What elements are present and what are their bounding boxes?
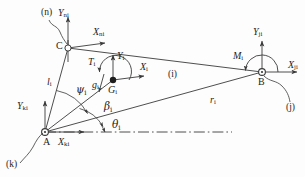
frame-label-j: (j): [286, 103, 295, 113]
angle-arc-theta-i: [101, 125, 105, 133]
angle-label-psi-i: ψi: [76, 84, 87, 96]
axis-label-Yji: Yji: [253, 27, 262, 38]
leader-frame-k: [20, 133, 43, 163]
angle-label-psi-i-base: ψ: [76, 83, 84, 95]
moment-label-Mi: Mi: [233, 51, 243, 62]
axis-label-Yi-sub: i: [123, 54, 125, 61]
angle-label-theta-i-sub: i: [118, 123, 120, 132]
segment-A-C: [45, 48, 68, 132]
axis-label-Xki-sub: ki: [64, 140, 69, 147]
point-label-A: A: [43, 137, 50, 147]
axis-label-Yni-sub: ni: [64, 11, 69, 18]
figure-canvas: (n) (k) (j) (i) C A B Yni Xni Yki Xki Yj…: [0, 0, 305, 177]
frame-label-k: (k): [6, 160, 17, 170]
joint-marker-B-inner: [261, 71, 263, 73]
angle-label-beta-i-sub: i: [110, 105, 112, 114]
axis-Xi: [113, 76, 144, 80]
length-label-li-sub: i: [50, 80, 52, 87]
point-label-Gi: Gi: [108, 85, 117, 96]
torque-arc-Ti: [99, 55, 131, 80]
axis-label-Yi: Yi: [117, 51, 124, 62]
axis-label-Xni: Xni: [93, 27, 104, 38]
axis-label-Yki: Yki: [17, 101, 28, 112]
axis-label-Xki: Xki: [58, 137, 69, 148]
axis-label-Yji-sub: ji: [259, 30, 263, 37]
axis-label-Xni-sub: ni: [99, 30, 104, 37]
segment-A-B: [45, 72, 262, 132]
body-label-i: (i): [168, 70, 177, 80]
point-label-Gi-sub: i: [115, 88, 117, 95]
axis-label-Xji-sub: ji: [294, 63, 298, 70]
axis-Xni: [68, 43, 105, 48]
axis-label-Yki-sub: ki: [23, 104, 28, 111]
angle-label-psi-i-sub: i: [84, 88, 86, 97]
gravity-label-gi-sub: i: [97, 83, 99, 90]
moment-label-Mi-sub: i: [241, 54, 243, 61]
angle-arc-beta-i: [80, 109, 104, 127]
point-label-B: B: [258, 77, 265, 87]
length-label-li: li: [47, 77, 52, 88]
angle-label-beta-i: βi: [104, 101, 112, 113]
gravity-label-gi: gi: [92, 80, 99, 91]
center-of-mass-marker-Gi: [110, 77, 116, 83]
point-label-C: C: [56, 41, 63, 51]
axis-label-Xi-sub: i: [146, 65, 148, 72]
joint-marker-C: [65, 45, 71, 51]
axis-label-Yni: Yni: [58, 8, 69, 19]
joint-marker-A-inner: [44, 131, 46, 133]
leader-frame-j: [264, 76, 290, 102]
axis-label-Xi: Xi: [140, 62, 148, 73]
angle-label-theta-i: θi: [112, 119, 121, 131]
length-label-ri-sub: i: [214, 98, 216, 105]
length-label-ri: ri: [210, 95, 216, 106]
torque-label-Ti-sub: i: [94, 60, 96, 67]
frame-label-n: (n): [41, 8, 52, 18]
torque-label-Ti: Ti: [88, 57, 95, 68]
axis-label-Xji: Xji: [288, 60, 298, 71]
